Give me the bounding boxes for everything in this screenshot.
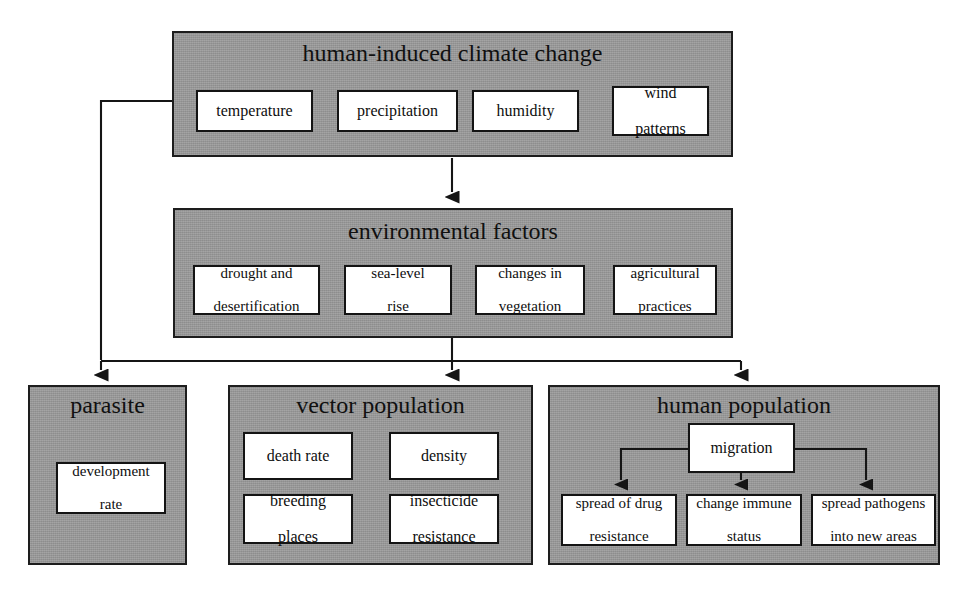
node-wind-patterns-label: wind patterns bbox=[635, 84, 686, 138]
node-density-label: density bbox=[421, 447, 467, 465]
node-wind-patterns[interactable]: wind patterns bbox=[612, 86, 709, 136]
node-precipitation[interactable]: precipitation bbox=[337, 90, 458, 132]
node-changes-in-vegetation-label: changes in vegetation bbox=[498, 265, 562, 315]
group-title-environment: environmental factors bbox=[175, 219, 731, 244]
node-spread-pathogens-into-new-areas[interactable]: spread pathogens into new areas bbox=[811, 494, 936, 546]
node-insecticide-resistance-label: insecticide resistance bbox=[410, 492, 478, 546]
node-migration-label: migration bbox=[710, 439, 772, 457]
node-humidity[interactable]: humidity bbox=[472, 90, 579, 132]
node-insecticide-resistance[interactable]: insecticide resistance bbox=[389, 494, 499, 544]
node-temperature[interactable]: temperature bbox=[196, 90, 313, 132]
node-changes-in-vegetation[interactable]: changes in vegetation bbox=[475, 265, 585, 315]
node-breeding-places[interactable]: breeding places bbox=[243, 494, 353, 544]
node-humidity-label: humidity bbox=[497, 102, 555, 120]
node-change-immune-status-label: change immune status bbox=[696, 495, 791, 545]
node-breeding-places-label: breeding places bbox=[270, 492, 326, 546]
node-agricultural-practices-label: agricultural practices bbox=[630, 265, 699, 315]
group-title-parasite: parasite bbox=[30, 393, 185, 418]
node-death-rate-label: death rate bbox=[267, 447, 330, 465]
diagram-canvas: human-induced climate change temperature… bbox=[0, 0, 979, 596]
node-death-rate[interactable]: death rate bbox=[243, 432, 353, 480]
node-spread-of-drug-resistance-label: spread of drug resistance bbox=[576, 495, 663, 545]
node-development-rate[interactable]: development rate bbox=[56, 462, 166, 514]
node-agricultural-practices[interactable]: agricultural practices bbox=[613, 265, 717, 315]
node-density[interactable]: density bbox=[389, 432, 499, 480]
node-sea-level-rise[interactable]: sea-level rise bbox=[344, 265, 452, 315]
node-change-immune-status[interactable]: change immune status bbox=[686, 494, 802, 546]
node-precipitation-label: precipitation bbox=[357, 102, 438, 120]
node-development-rate-label: development rate bbox=[72, 463, 149, 513]
node-temperature-label: temperature bbox=[216, 102, 292, 120]
node-drought-desertification-label: drought and desertification bbox=[214, 265, 300, 315]
node-spread-pathogens-into-new-areas-label: spread pathogens into new areas bbox=[822, 495, 926, 545]
group-title-climate: human-induced climate change bbox=[174, 41, 731, 66]
edge-migration-to-drug-resistance bbox=[621, 449, 688, 480]
node-migration[interactable]: migration bbox=[688, 423, 795, 473]
node-spread-of-drug-resistance[interactable]: spread of drug resistance bbox=[561, 494, 677, 546]
node-sea-level-rise-label: sea-level rise bbox=[371, 265, 424, 315]
group-title-vector: vector population bbox=[230, 393, 531, 418]
node-drought-desertification[interactable]: drought and desertification bbox=[193, 265, 320, 315]
edge-migration-to-spread-pathogens bbox=[795, 449, 866, 480]
